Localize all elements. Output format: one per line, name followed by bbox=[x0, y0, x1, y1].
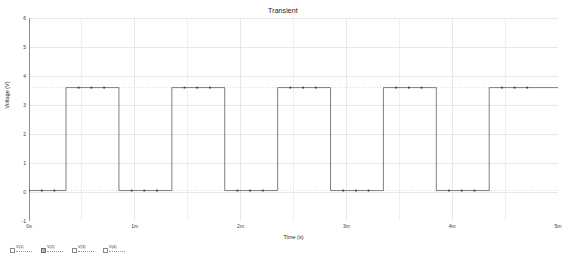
x-tick-label: 1m bbox=[120, 224, 150, 229]
y-tick-label: 0 bbox=[4, 190, 26, 195]
data-point-marker bbox=[395, 87, 397, 89]
data-point-marker bbox=[421, 87, 423, 89]
x-tick-label: 4m bbox=[437, 224, 467, 229]
y-tick-label: -1 bbox=[4, 219, 26, 224]
data-point-marker bbox=[249, 190, 251, 192]
legend-series-label: V(2) bbox=[47, 245, 55, 249]
data-point-marker bbox=[289, 87, 291, 89]
y-tick-label: 6 bbox=[4, 16, 26, 21]
data-point-marker bbox=[315, 87, 317, 89]
data-point-marker bbox=[514, 87, 516, 89]
data-point-marker bbox=[184, 87, 186, 89]
data-point-marker bbox=[262, 190, 264, 192]
plot-canvas bbox=[29, 18, 558, 221]
data-point-marker bbox=[91, 87, 93, 89]
legend-series-label: V(3) bbox=[78, 245, 86, 249]
y-tick-label: 1 bbox=[4, 161, 26, 166]
legend-series-label: V(1) bbox=[16, 245, 24, 249]
legend-checkbox-icon[interactable] bbox=[10, 248, 15, 253]
x-tick-label: 2m bbox=[226, 224, 256, 229]
data-point-marker bbox=[461, 190, 463, 192]
data-point-marker bbox=[342, 190, 344, 192]
y-axis-label: Voltage (V) bbox=[4, 50, 10, 140]
legend-series-label: V(4) bbox=[109, 245, 117, 249]
data-point-marker bbox=[143, 190, 145, 192]
legend-checkbox-icon[interactable] bbox=[103, 248, 108, 253]
legend-text: V(1) bbox=[16, 245, 32, 252]
data-point-marker bbox=[41, 190, 43, 192]
data-point-marker bbox=[448, 190, 450, 192]
legend-line-swatch bbox=[47, 251, 63, 252]
legend-checkbox-icon[interactable] bbox=[41, 248, 46, 253]
legend-item[interactable]: V(1) bbox=[10, 245, 32, 256]
chart-title: Transient bbox=[0, 7, 566, 15]
x-axis-label: Time (s) bbox=[29, 234, 558, 240]
legend-item[interactable]: V(2) bbox=[41, 245, 63, 256]
x-tick-label: 5m bbox=[543, 224, 566, 229]
legend-line-swatch bbox=[78, 251, 94, 252]
series-markers bbox=[29, 87, 528, 192]
data-point-marker bbox=[474, 190, 476, 192]
y-tick-label: 5 bbox=[4, 45, 26, 50]
legend-line-swatch bbox=[109, 251, 125, 252]
data-point-marker bbox=[526, 87, 528, 89]
data-point-marker bbox=[209, 87, 211, 89]
x-tick-label: 0s bbox=[14, 224, 44, 229]
legend-checkbox-icon[interactable] bbox=[72, 248, 77, 253]
legend-line-swatch bbox=[16, 251, 32, 252]
data-point-marker bbox=[196, 87, 198, 89]
legend[interactable]: V(1)V(2)V(3)V(4) bbox=[10, 245, 134, 257]
plot-area[interactable] bbox=[29, 18, 558, 221]
legend-text: V(3) bbox=[78, 245, 94, 252]
transient-plot-window: Transient -10123456 0s1m2m3m4m5m Voltage… bbox=[0, 0, 566, 268]
data-point-marker bbox=[302, 87, 304, 89]
data-point-marker bbox=[131, 190, 133, 192]
data-point-marker bbox=[408, 87, 410, 89]
legend-item[interactable]: V(3) bbox=[72, 245, 94, 256]
data-point-marker bbox=[29, 190, 30, 192]
legend-text: V(4) bbox=[109, 245, 125, 252]
data-point-marker bbox=[237, 190, 239, 192]
data-point-marker bbox=[368, 190, 370, 192]
data-point-marker bbox=[103, 87, 105, 89]
legend-item[interactable]: V(4) bbox=[103, 245, 125, 256]
legend-text: V(2) bbox=[47, 245, 63, 252]
x-tick-label: 3m bbox=[331, 224, 361, 229]
data-point-marker bbox=[501, 87, 503, 89]
data-point-marker bbox=[156, 190, 158, 192]
data-point-marker bbox=[78, 87, 80, 89]
data-point-marker bbox=[53, 190, 55, 192]
data-point-marker bbox=[355, 190, 357, 192]
